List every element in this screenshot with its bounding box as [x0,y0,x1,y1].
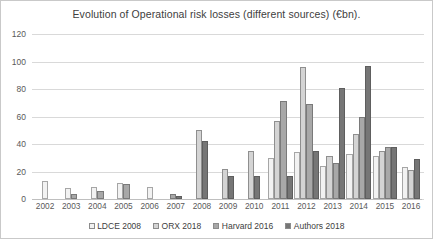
y-axis-tick-labels: 020406080100120 [1,34,28,199]
y-tick-label: 0 [21,194,26,204]
bar-group [398,34,424,199]
x-tick-label: 2002 [32,201,58,211]
bar [123,184,129,199]
y-tick-label: 20 [17,167,26,177]
bar-group [293,34,319,199]
legend-swatch-icon [213,223,219,229]
bar [414,159,420,199]
x-tick-label: 2011 [267,201,293,211]
x-tick-label: 2016 [398,201,424,211]
bar-group [215,34,241,199]
legend-swatch-icon [153,223,159,229]
y-tick-label: 40 [17,139,26,149]
bar [228,176,234,199]
x-tick-label: 2009 [215,201,241,211]
x-tick-label: 2014 [346,201,372,211]
bar-group [137,34,163,199]
legend-label: Authors 2018 [294,221,345,231]
bar-group [241,34,267,199]
bar-group [372,34,398,199]
bar-group [32,34,58,199]
bar [254,176,260,199]
legend-label: Harvard 2016 [222,221,274,231]
bar [391,147,397,199]
y-tick-label: 60 [17,112,26,122]
bar-group [189,34,215,199]
bar-chart: Evolution of Operational risk losses (di… [0,0,433,239]
bar [202,141,208,199]
legend-item[interactable]: ORX 2018 [153,221,201,231]
bar-group [346,34,372,199]
bar [287,176,293,199]
legend-item[interactable]: Authors 2018 [285,221,344,231]
legend-item[interactable]: Harvard 2016 [213,221,273,231]
x-tick-label: 2010 [241,201,267,211]
x-tick-label: 2015 [372,201,398,211]
legend-label: LDCE 2008 [97,221,141,231]
x-tick-label: 2012 [293,201,319,211]
x-tick-label: 2013 [320,201,346,211]
bar [147,187,153,199]
bar [42,181,48,199]
x-tick-label: 2006 [137,201,163,211]
bar [313,151,319,199]
bar-groups [32,34,424,199]
x-tick-label: 2004 [84,201,110,211]
legend-item[interactable]: LDCE 2008 [89,221,141,231]
x-tick-label: 2007 [163,201,189,211]
chart-legend: LDCE 2008ORX 2018Harvard 2016Authors 201… [1,221,432,231]
bar-group [267,34,293,199]
bar-group [163,34,189,199]
chart-title: Evolution of Operational risk losses (di… [1,8,432,20]
bar-group [84,34,110,199]
bar-group [320,34,346,199]
x-tick-label: 2005 [110,201,136,211]
x-axis-tick-labels: 2002200320042005200620072008200920102011… [32,201,424,211]
bar-group [110,34,136,199]
y-tick-label: 100 [12,57,26,67]
bar [339,88,345,199]
x-axis-line [32,199,422,200]
y-tick-label: 120 [12,29,26,39]
plot-area [32,34,424,199]
legend-label: ORX 2018 [162,221,202,231]
y-tick-label: 80 [17,84,26,94]
legend-swatch-icon [285,223,291,229]
x-tick-label: 2008 [189,201,215,211]
legend-swatch-icon [89,223,95,229]
bar [365,66,371,199]
x-tick-label: 2003 [58,201,84,211]
bar [97,191,103,199]
bar-group [58,34,84,199]
